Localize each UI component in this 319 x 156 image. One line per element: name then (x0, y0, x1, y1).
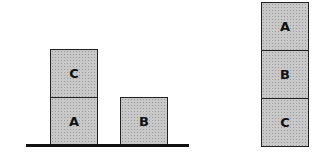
block-label: A (280, 19, 290, 34)
block-c-goal: C (261, 98, 309, 147)
block-label: C (280, 115, 290, 130)
block-label: A (69, 114, 79, 129)
block-label: B (139, 114, 149, 129)
block-c-initial: C (50, 49, 98, 98)
ground-line (26, 144, 189, 147)
block-b-goal: B (261, 50, 309, 99)
block-b-initial: B (120, 97, 168, 145)
block-label: B (280, 67, 290, 82)
block-label: C (69, 66, 79, 81)
block-a-initial: A (50, 97, 98, 145)
block-a-goal: A (261, 2, 309, 51)
